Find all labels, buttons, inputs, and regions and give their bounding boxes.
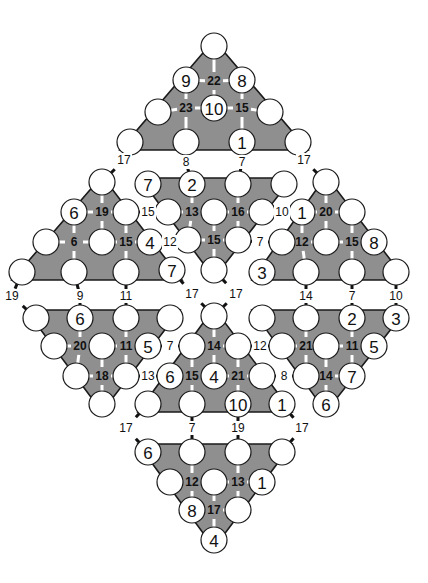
number-circle[interactable]: 6 xyxy=(157,363,183,389)
number-circle[interactable] xyxy=(225,497,251,523)
circle-shape[interactable] xyxy=(257,99,283,125)
number-circle[interactable]: 10 xyxy=(201,95,227,121)
number-circle[interactable] xyxy=(135,391,161,417)
number-circle[interactable] xyxy=(201,303,227,329)
circle-shape[interactable] xyxy=(61,259,87,285)
number-circle[interactable] xyxy=(313,169,339,195)
number-circle[interactable]: 6 xyxy=(67,305,93,331)
number-circle[interactable]: 4 xyxy=(201,363,227,389)
circle-shape[interactable] xyxy=(41,333,67,359)
number-circle[interactable] xyxy=(33,229,59,255)
number-circle[interactable] xyxy=(89,169,115,195)
circle-shape[interactable] xyxy=(269,333,295,359)
number-circle[interactable] xyxy=(113,259,139,285)
number-circle[interactable] xyxy=(175,227,201,253)
number-circle[interactable] xyxy=(269,333,295,359)
circle-shape[interactable] xyxy=(201,199,227,225)
circle-shape[interactable] xyxy=(113,259,139,285)
number-circle[interactable] xyxy=(179,333,205,359)
circle-shape[interactable] xyxy=(113,305,139,331)
number-circle[interactable]: 9 xyxy=(173,67,199,93)
number-circle[interactable]: 7 xyxy=(135,171,161,197)
circle-shape[interactable] xyxy=(201,33,227,59)
number-circle[interactable] xyxy=(249,363,275,389)
circle-shape[interactable] xyxy=(249,363,275,389)
number-circle[interactable] xyxy=(383,259,409,285)
number-circle[interactable]: 3 xyxy=(249,259,275,285)
circle-shape[interactable] xyxy=(225,171,251,197)
number-circle[interactable] xyxy=(9,259,35,285)
number-circle[interactable] xyxy=(63,363,89,389)
number-circle[interactable] xyxy=(145,99,171,125)
number-circle[interactable]: 7 xyxy=(159,257,185,283)
number-circle[interactable]: 2 xyxy=(339,305,365,331)
number-circle[interactable] xyxy=(113,363,139,389)
number-circle[interactable] xyxy=(225,333,251,359)
number-circle[interactable] xyxy=(113,305,139,331)
number-circle[interactable] xyxy=(113,199,139,225)
circle-shape[interactable] xyxy=(179,391,205,417)
circle-shape[interactable] xyxy=(313,169,339,195)
number-circle[interactable]: 6 xyxy=(313,391,339,417)
circle-shape[interactable] xyxy=(225,497,251,523)
number-circle[interactable] xyxy=(89,333,115,359)
number-circle[interactable]: 8 xyxy=(229,67,255,93)
circle-shape[interactable] xyxy=(225,227,251,253)
number-circle[interactable] xyxy=(117,129,143,155)
number-circle[interactable] xyxy=(293,305,319,331)
number-circle[interactable]: 2 xyxy=(179,171,205,197)
number-circle[interactable] xyxy=(201,257,227,283)
number-circle[interactable]: 3 xyxy=(383,305,409,331)
number-circle[interactable]: 1 xyxy=(229,129,255,155)
circle-shape[interactable] xyxy=(201,257,227,283)
circle-shape[interactable] xyxy=(113,363,139,389)
circle-shape[interactable] xyxy=(145,99,171,125)
circle-shape[interactable] xyxy=(271,171,297,197)
number-circle[interactable] xyxy=(179,391,205,417)
number-circle[interactable] xyxy=(249,305,275,331)
circle-shape[interactable] xyxy=(179,333,205,359)
circle-shape[interactable] xyxy=(339,259,365,285)
number-circle[interactable]: 6 xyxy=(61,199,87,225)
circle-shape[interactable] xyxy=(157,469,183,495)
circle-shape[interactable] xyxy=(201,469,227,495)
number-circle[interactable] xyxy=(339,259,365,285)
circle-shape[interactable] xyxy=(313,333,339,359)
circle-shape[interactable] xyxy=(249,199,275,225)
circle-shape[interactable] xyxy=(225,439,251,465)
number-circle[interactable] xyxy=(313,333,339,359)
circle-shape[interactable] xyxy=(225,333,251,359)
number-circle[interactable] xyxy=(173,129,199,155)
number-circle[interactable] xyxy=(293,363,319,389)
circle-shape[interactable] xyxy=(285,129,311,155)
number-circle[interactable]: 5 xyxy=(135,333,161,359)
number-circle[interactable] xyxy=(155,199,181,225)
circle-shape[interactable] xyxy=(313,229,339,255)
circle-shape[interactable] xyxy=(63,363,89,389)
circle-shape[interactable] xyxy=(9,259,35,285)
number-circle[interactable] xyxy=(157,305,183,331)
number-circle[interactable]: 6 xyxy=(135,439,161,465)
number-circle[interactable] xyxy=(41,333,67,359)
number-circle[interactable]: 4 xyxy=(137,229,163,255)
number-circle[interactable] xyxy=(313,229,339,255)
number-circle[interactable] xyxy=(257,99,283,125)
circle-shape[interactable] xyxy=(383,259,409,285)
number-circle[interactable]: 8 xyxy=(179,497,205,523)
number-circle[interactable] xyxy=(201,33,227,59)
number-circle[interactable] xyxy=(201,469,227,495)
circle-shape[interactable] xyxy=(89,333,115,359)
circle-shape[interactable] xyxy=(89,169,115,195)
circle-shape[interactable] xyxy=(155,199,181,225)
circle-shape[interactable] xyxy=(179,439,205,465)
number-circle[interactable] xyxy=(23,305,49,331)
circle-shape[interactable] xyxy=(113,199,139,225)
circle-shape[interactable] xyxy=(89,229,115,255)
circle-shape[interactable] xyxy=(293,305,319,331)
number-circle[interactable]: 10 xyxy=(225,391,251,417)
number-circle[interactable]: 1 xyxy=(269,391,295,417)
number-circle[interactable] xyxy=(339,199,365,225)
circle-shape[interactable] xyxy=(293,363,319,389)
circle-shape[interactable] xyxy=(293,259,319,285)
circle-shape[interactable] xyxy=(175,227,201,253)
